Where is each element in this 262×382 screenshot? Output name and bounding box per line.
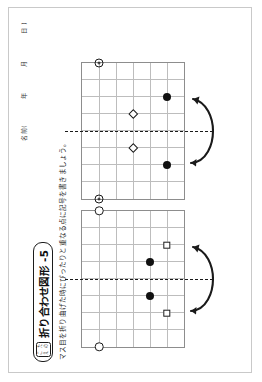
symbol-open-circle-right bbox=[95, 207, 104, 216]
worksheet-header: 名前( 年 月 日 ) bbox=[19, 22, 28, 141]
grid-hline bbox=[116, 63, 117, 199]
symmetry-grid[interactable] bbox=[81, 210, 185, 348]
worksheet-sheet: 名前( 年 月 日 ) こ た え の 折り合わせ図形 -5 マ bbox=[9, 8, 253, 374]
grid-hline bbox=[150, 211, 151, 347]
year-label: 年 bbox=[19, 93, 28, 99]
grid-hline bbox=[167, 211, 168, 347]
symbol-open-square-left bbox=[163, 309, 170, 316]
grid-hline bbox=[116, 211, 117, 347]
badge-char-2: た bbox=[38, 344, 42, 348]
grid-hline bbox=[133, 211, 134, 347]
fold-arrow-curve-icon bbox=[189, 94, 215, 168]
day-label: 日 bbox=[19, 28, 28, 34]
title-bar: こ た え の 折り合わせ図形 -5 bbox=[33, 242, 53, 362]
name-field-label: 名前( bbox=[19, 125, 28, 141]
page-title: 折り合わせ図形 -5 bbox=[36, 250, 51, 338]
arrow-tail-icon bbox=[191, 159, 197, 167]
rotated-sheet-wrapper: 名前( 年 月 日 ) こ た え の 折り合わせ図形 -5 マ bbox=[9, 8, 253, 374]
symbol-filled-dot-right bbox=[146, 258, 154, 266]
symbol-double-circle-left bbox=[95, 195, 104, 204]
symbol-filled-dot-left bbox=[146, 292, 154, 300]
badge-char-3: え bbox=[44, 351, 48, 355]
fold-arrow-curve bbox=[189, 94, 219, 168]
instruction-text: マス目を折り曲げた時にぴったりと重なる点に記号を書きましょう。 bbox=[57, 140, 67, 360]
answer-badge: こ た え の bbox=[36, 342, 51, 357]
symmetry-grid[interactable] bbox=[81, 62, 185, 200]
problem-1 bbox=[81, 210, 185, 348]
grid-hline bbox=[133, 63, 134, 199]
fold-arrow-curve bbox=[189, 242, 219, 316]
symbol-diamond-left bbox=[128, 143, 137, 152]
grid-hline bbox=[99, 63, 100, 199]
symbol-open-square-right bbox=[163, 241, 170, 248]
symbol-diamond-right bbox=[128, 109, 137, 118]
grid-hline bbox=[99, 211, 100, 347]
month-label: 月 bbox=[19, 60, 28, 66]
worksheet-page: 名前( 年 月 日 ) こ た え の 折り合わせ図形 -5 マ bbox=[0, 0, 262, 382]
grid-hline bbox=[150, 63, 151, 199]
symbol-open-circle-left bbox=[95, 343, 104, 352]
symbol-filled-dot-right bbox=[163, 93, 171, 101]
problem-2 bbox=[81, 62, 185, 200]
symbol-double-circle-right bbox=[95, 59, 104, 68]
badge-char-4: の bbox=[44, 344, 48, 348]
arrow-tail-icon bbox=[191, 307, 197, 315]
symbol-filled-dot-left bbox=[163, 161, 171, 169]
fold-arrow-curve-icon bbox=[189, 242, 215, 316]
grid-hline bbox=[167, 63, 168, 199]
header-close-paren: ) bbox=[20, 22, 27, 25]
badge-char-1: こ bbox=[38, 351, 42, 355]
